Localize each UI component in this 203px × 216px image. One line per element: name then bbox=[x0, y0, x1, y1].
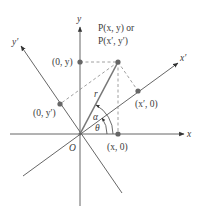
label-0-y-prime: (0, y′) bbox=[33, 108, 56, 119]
y-prime-axis bbox=[21, 46, 122, 193]
projection-line-to-x-prime bbox=[118, 62, 138, 91]
label-x-0: (x, 0) bbox=[107, 142, 128, 153]
point-p-label-line2: P(x′, y′) bbox=[98, 36, 128, 47]
label-x-prime-0: (x′, 0) bbox=[135, 99, 158, 110]
point-0-y bbox=[77, 59, 82, 64]
x-prime-axis bbox=[23, 63, 178, 176]
y-axis-label: y bbox=[76, 14, 82, 24]
x-axis-label: x bbox=[186, 129, 192, 139]
theta-label: θ bbox=[95, 123, 100, 133]
point-0-y-prime bbox=[57, 101, 62, 106]
rotation-of-axes-diagram: y x x′ y′ O P(x, y) or P(x′, y′) (0, y) … bbox=[0, 0, 203, 216]
origin-point bbox=[79, 133, 82, 136]
radius-label-r: r bbox=[94, 89, 98, 99]
origin-label: O bbox=[69, 143, 76, 153]
point-x-0 bbox=[115, 131, 120, 136]
y-prime-axis-label: y′ bbox=[11, 37, 19, 47]
theta-arc bbox=[102, 118, 107, 134]
point-p bbox=[115, 59, 120, 64]
x-prime-axis-label: x′ bbox=[179, 53, 187, 63]
point-x-prime-0 bbox=[135, 88, 140, 93]
label-0-y: (0, y) bbox=[52, 57, 73, 68]
projection-line-to-y-prime bbox=[60, 62, 118, 104]
point-p-label-line1: P(x, y) or bbox=[98, 23, 135, 34]
alpha-label: α bbox=[93, 112, 99, 122]
